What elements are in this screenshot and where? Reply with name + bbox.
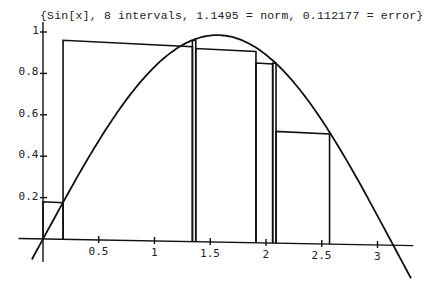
x-tick-label: 0.5 [89,245,109,258]
y-tick-label: 0.2 [19,190,39,203]
x-axis [18,239,413,246]
interval-rectangle [276,131,330,244]
approximation-rectangles [43,40,330,244]
interval-rectangle [63,40,192,241]
interval-rectangle [196,49,256,243]
axes [18,22,413,262]
x-tick-label: 1 [151,246,158,259]
y-tick-label: 0.8 [19,65,39,78]
x-tick-label: 2.5 [312,249,332,262]
interval-rectangle [256,63,273,243]
plot-area [0,0,438,286]
x-tick-label: 2 [263,248,270,261]
y-tick-label: 1 [32,24,39,37]
x-tick-label: 3 [374,250,381,263]
y-tick-label: 0.4 [19,148,39,161]
x-tick-label: 1.5 [200,247,220,260]
y-tick-label: 0.6 [19,107,39,120]
